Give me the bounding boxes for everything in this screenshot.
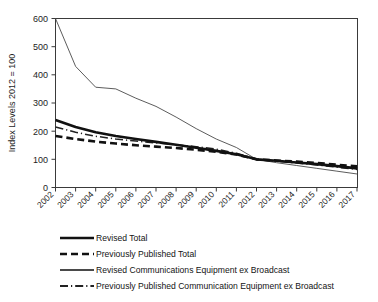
chart-figure: 600 500 400 300 200 100 0 Index Levels 2…: [0, 0, 378, 302]
x-tick-label: 2005: [95, 189, 116, 210]
x-tick-label: 2014: [276, 189, 297, 210]
legend-label-revised-comm-equip: Revised Communications Equipment ex Broa…: [96, 265, 290, 275]
legend-label-revised-total: Revised Total: [96, 233, 148, 243]
x-tick-label: 2012: [236, 189, 257, 210]
series-revised-total: [56, 120, 358, 168]
y-axis-ticks: [52, 19, 56, 188]
y-tick-label: 100: [33, 155, 48, 165]
y-axis-title: Index Levels 2012 = 100: [7, 54, 17, 152]
y-tick-label: 300: [33, 98, 48, 108]
x-tick-label: 2007: [135, 189, 156, 210]
x-tick-label: 2006: [115, 189, 136, 210]
legend-label-prev-published-comm-equip: Previously Published Communication Equip…: [96, 281, 334, 291]
y-tick-label: 500: [33, 42, 48, 52]
chart-legend: Revised Total Previously Published Total…: [60, 233, 334, 291]
x-tick-label: 2008: [156, 189, 177, 210]
x-tick-label: 2010: [196, 189, 217, 210]
y-tick-label: 400: [33, 70, 48, 80]
y-tick-label: 600: [33, 14, 48, 24]
series-previously-published-total: [56, 136, 358, 166]
x-tick-label: 2011: [216, 189, 236, 209]
x-tick-label: 2015: [296, 189, 317, 210]
legend-label-previously-published-total: Previously Published Total: [96, 249, 196, 259]
series-revised-comm-equip: [56, 19, 358, 174]
y-tick-label: 200: [33, 127, 48, 137]
x-axis-tick-labels: 2002 2003 2004 2005 2006 2007 2008 2009 …: [35, 189, 357, 210]
x-tick-label: 2017: [336, 189, 357, 210]
x-tick-label: 2004: [75, 189, 96, 210]
x-tick-label: 2016: [316, 189, 337, 210]
x-tick-label: 2009: [176, 189, 197, 210]
x-tick-label: 2003: [55, 189, 76, 210]
y-axis-tick-labels: 600 500 400 300 200 100 0: [33, 14, 48, 193]
x-tick-label: 2013: [256, 189, 277, 210]
x-tick-label: 2002: [35, 189, 56, 210]
chart-svg: 600 500 400 300 200 100 0 Index Levels 2…: [0, 0, 378, 302]
